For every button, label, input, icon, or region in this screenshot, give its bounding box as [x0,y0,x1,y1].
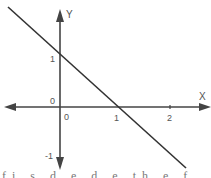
y-axis-label: Y [66,9,73,20]
x-tick-label-1: 1 [114,113,119,123]
y-tick-label-0: 0 [50,96,55,106]
cropped-caption-text: fi s d e d e th e f [2,169,193,178]
y-tick-label-neg1: -1 [45,151,53,161]
x-axis-left-arrow-icon [4,103,16,111]
y-axis-up-arrow-icon [56,9,64,22]
y-tick-label-1: 1 [50,54,55,64]
function-line [8,7,186,168]
x-axis-label: X [199,91,206,102]
x-tick-label-0: 0 [64,112,69,122]
line-chart: Y X 1 0 -1 0 1 2 [0,0,211,178]
x-axis-right-arrow-icon [199,103,211,111]
x-tick-label-2: 2 [167,113,172,123]
